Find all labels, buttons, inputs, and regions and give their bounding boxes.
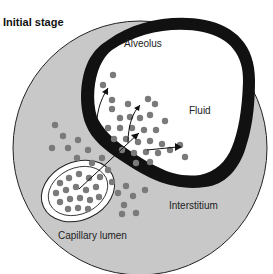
label-capillary-lumen: Capillary lumen — [58, 230, 127, 241]
label-fluid: Fluid — [189, 105, 211, 116]
label-alveolus: Alveolus — [124, 38, 162, 49]
stage-title: Initial stage — [3, 16, 64, 28]
diagram: Initial stage Alveolus Fluid Interstitiu… — [0, 0, 273, 274]
label-interstitium: Interstitium — [169, 200, 218, 211]
